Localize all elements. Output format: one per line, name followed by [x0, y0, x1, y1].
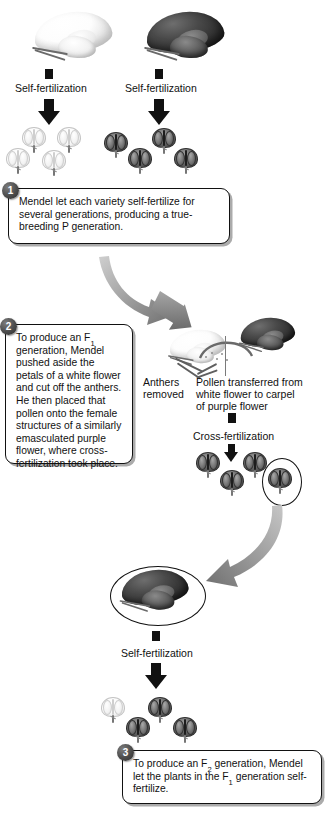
- pollen-transfer-label-line2: white flower to carpel: [196, 388, 295, 400]
- down-arrow-p-purple: [148, 99, 170, 125]
- flow-arrow-f1-to-enlarged: [198, 505, 298, 597]
- step-1-badge: 1: [2, 182, 19, 199]
- step-3-text-sub2: 1: [229, 778, 233, 787]
- self-fertilization-label-right: Self-fertilization: [125, 82, 197, 94]
- pollen-transfer-arc: [198, 336, 254, 362]
- step-3-callout: To produce an F2 generation, Mendel let …: [122, 750, 322, 804]
- step-1-text: Mendel let each variety self-fertilize f…: [19, 196, 195, 232]
- step-3-text-pre: To produce an F: [133, 758, 207, 769]
- f2-purple-flower: [173, 717, 197, 743]
- step-2-callout: To produce an F1 generation, Mendel push…: [5, 324, 133, 464]
- self-fertilization-label-left: Self-fertilization: [15, 82, 87, 94]
- f1-purple-flower: [220, 470, 244, 496]
- anthers-removed-label-line2: removed: [143, 388, 184, 400]
- self-fert-marker-f1: [152, 631, 160, 641]
- parent-white-flower: [28, 12, 116, 68]
- anthers-removed-label-line1: Anthers: [143, 376, 179, 388]
- down-arrow-f1-self-fert: [145, 663, 167, 689]
- self-fert-marker-right: [155, 69, 163, 79]
- mendel-experiment-diagram: { "diagram": { "title": "Mendel's cross-…: [0, 0, 331, 818]
- p-white-offspring-flower: [42, 150, 66, 176]
- f2-purple-flower: [126, 717, 150, 743]
- step-2-text-sub: 1: [90, 339, 94, 348]
- cross-fert-marker: [228, 413, 236, 423]
- parent-purple-flower: [140, 12, 228, 68]
- f2-white-flower: [101, 697, 125, 723]
- step-3-text-sub: 2: [207, 765, 211, 774]
- cross-fertilization-label: Cross-fertilization: [193, 430, 274, 442]
- f1-selection-ring: [262, 458, 302, 506]
- p-purple-offspring-flower: [174, 148, 198, 174]
- step-2-text-pre: To produce an F: [16, 332, 90, 343]
- pollen-transfer-label-line3: of purple flower: [196, 400, 268, 412]
- step-2-badge: 2: [0, 318, 17, 335]
- p-purple-offspring-flower: [104, 132, 128, 158]
- down-arrow-p-white: [38, 99, 60, 125]
- pollen-transfer-label-line1: Pollen transferred from: [196, 376, 303, 388]
- f2-purple-flower: [148, 697, 172, 723]
- step-3-badge: 3: [117, 744, 134, 761]
- f1-purple-flower: [196, 452, 220, 478]
- p-purple-offspring-flower: [128, 148, 152, 174]
- pollen-label-pointer-line: [225, 336, 226, 376]
- step-2-text-post: generation, Mendel pushed aside the peta…: [16, 345, 121, 469]
- down-arrow-cross-fert: [224, 444, 239, 462]
- p-white-offspring-flower: [6, 148, 30, 174]
- enlarged-f1-selection-ring: [110, 566, 206, 626]
- p-purple-offspring-flower: [152, 128, 176, 154]
- self-fertilization-label-f1: Self-fertilization: [121, 647, 193, 659]
- self-fert-marker-left: [45, 69, 53, 79]
- step-1-callout: Mendel let each variety self-fertilize f…: [8, 188, 230, 244]
